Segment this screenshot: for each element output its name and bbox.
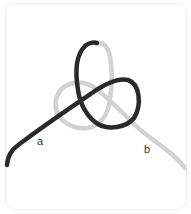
label-a: a [37, 135, 43, 147]
label-b: b [144, 143, 150, 155]
dark-cord [7, 42, 139, 165]
knot-illustration [0, 0, 191, 214]
